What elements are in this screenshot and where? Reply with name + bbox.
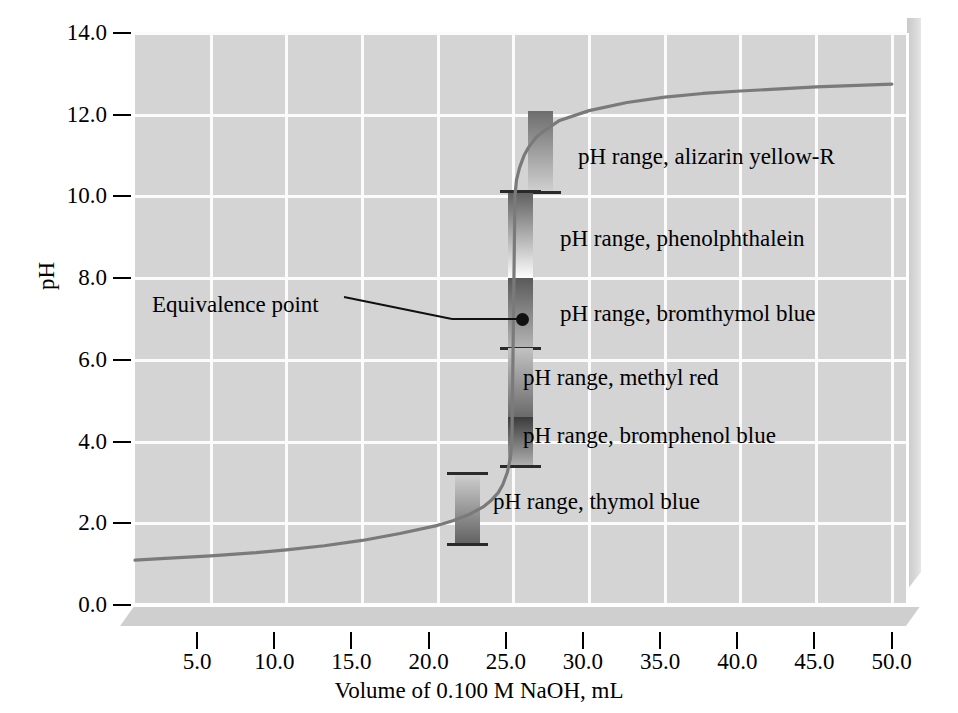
y-tick-label: 12.0 xyxy=(45,103,107,126)
gridline-vertical xyxy=(891,33,894,605)
y-tick-mark xyxy=(113,359,131,361)
x-tick-label: 35.0 xyxy=(625,650,695,673)
indicator-label-bromphenol-blue: pH range, bromphenol blue xyxy=(523,424,776,447)
indicator-band-thymol-blue xyxy=(455,474,480,543)
y-tick-label: 6.0 xyxy=(45,348,107,371)
x-tick-mark xyxy=(350,632,352,649)
plot-depth-bottom-panel xyxy=(120,605,921,626)
y-tick-label: 4.0 xyxy=(45,430,107,453)
y-tick-mark xyxy=(113,32,131,34)
x-tick-mark xyxy=(505,632,507,649)
x-tick-label: 50.0 xyxy=(857,650,927,673)
gridline-horizontal xyxy=(135,32,907,35)
gridline-vertical xyxy=(285,33,288,605)
x-tick-mark xyxy=(813,632,815,649)
indicator-cap-top-phenolphthalein xyxy=(500,190,541,193)
x-tick-mark xyxy=(659,632,661,649)
indicator-label-alizarin-yellow-r: pH range, alizarin yellow-R xyxy=(578,145,835,168)
titration-curve-figure: 14.012.010.08.06.04.02.00.0 5.010.015.02… xyxy=(0,0,958,713)
x-tick-label: 45.0 xyxy=(779,650,849,673)
x-tick-label: 40.0 xyxy=(702,650,772,673)
plot-bottom-edge-seam xyxy=(118,603,923,607)
gridline-vertical xyxy=(210,33,213,605)
y-tick-label: 0.0 xyxy=(45,593,107,616)
y-tick-mark xyxy=(113,277,131,279)
gridline-horizontal xyxy=(135,522,907,525)
x-tick-mark xyxy=(273,632,275,649)
x-tick-label: 30.0 xyxy=(548,650,618,673)
indicator-label-phenolphthalein: pH range, phenolphthalein xyxy=(560,227,805,250)
y-axis-title: pH xyxy=(34,262,60,290)
gridline-vertical xyxy=(815,33,818,605)
x-tick-mark xyxy=(891,632,893,649)
indicator-cap-bottom-thymol-blue xyxy=(447,543,488,546)
x-tick-label: 5.0 xyxy=(162,650,232,673)
x-axis-title: Volume of 0.100 M NaOH, mL xyxy=(0,678,958,704)
gridline-vertical xyxy=(437,33,440,605)
indicator-label-thymol-blue: pH range, thymol blue xyxy=(493,490,700,513)
plot-depth-right-panel xyxy=(907,18,921,590)
y-tick-label: 14.0 xyxy=(45,21,107,44)
x-tick-label: 25.0 xyxy=(471,650,541,673)
x-tick-mark xyxy=(736,632,738,649)
y-tick-mark xyxy=(113,441,131,443)
y-tick-mark xyxy=(113,114,131,116)
indicator-cap-bottom-bromphenol-blue xyxy=(500,465,541,468)
indicator-cap-top-thymol-blue xyxy=(447,472,488,475)
y-tick-label: 10.0 xyxy=(45,184,107,207)
y-tick-mark xyxy=(113,522,131,524)
indicator-band-phenolphthalein xyxy=(508,192,533,278)
indicator-band-alizarin-yellow-r xyxy=(528,111,553,193)
gridline-vertical xyxy=(361,33,364,605)
x-tick-mark xyxy=(196,632,198,649)
y-tick-mark xyxy=(113,195,131,197)
x-tick-label: 20.0 xyxy=(394,650,464,673)
x-tick-label: 15.0 xyxy=(316,650,386,673)
equivalence-point-label: Equivalence point xyxy=(152,293,319,316)
y-tick-label: 2.0 xyxy=(45,511,107,534)
x-tick-mark xyxy=(582,632,584,649)
indicator-label-methyl-red: pH range, methyl red xyxy=(523,366,718,389)
x-tick-mark xyxy=(428,632,430,649)
gridline-horizontal xyxy=(135,114,907,117)
y-tick-mark xyxy=(113,604,131,606)
plot-right-edge-seam xyxy=(906,33,909,606)
indicator-label-bromthymol-blue: pH range, bromthymol blue xyxy=(560,302,816,325)
x-tick-label: 10.0 xyxy=(239,650,309,673)
